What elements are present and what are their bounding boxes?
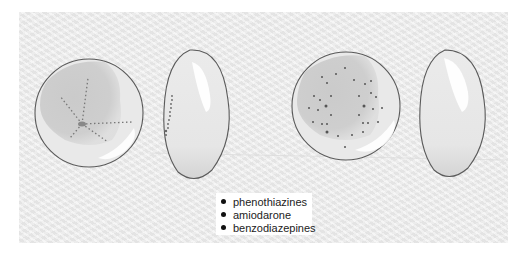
legend-item: benzodiazepines xyxy=(221,221,312,234)
legend-item: phenothiazines xyxy=(221,195,312,208)
legend-label: phenothiazines xyxy=(233,196,307,208)
legend-label: benzodiazepines xyxy=(233,222,316,234)
legend-list: phenothiazines amiodarone benzodiazepine… xyxy=(216,193,312,234)
legend: phenothiazines amiodarone benzodiazepine… xyxy=(216,193,312,235)
right-cornea-front-icon xyxy=(292,52,400,160)
legend-label: amiodarone xyxy=(233,209,291,221)
left-cornea-front-icon xyxy=(35,59,143,167)
bullet-icon xyxy=(221,199,226,204)
legend-item: amiodarone xyxy=(221,208,312,221)
left-cornea-side-icon xyxy=(164,50,230,179)
right-cornea-side-icon xyxy=(420,50,486,177)
bullet-icon xyxy=(221,212,226,217)
bullet-icon xyxy=(221,225,226,230)
